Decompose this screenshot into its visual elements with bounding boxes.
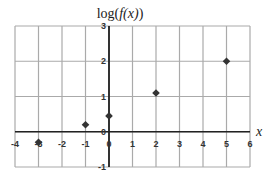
- data-point-diamond: [152, 89, 160, 97]
- chart-title: log(f(x)): [97, 6, 144, 22]
- y-tick-label: 2: [101, 56, 106, 66]
- x-tick-label: 6: [247, 139, 252, 149]
- x-tick-label: 2: [153, 139, 158, 149]
- data-point-diamond: [82, 121, 90, 129]
- x-tick-label: -2: [58, 139, 66, 149]
- x-tick-label: 5: [224, 139, 229, 149]
- y-tick-label: -1: [98, 162, 106, 172]
- x-tick-label: 3: [177, 139, 182, 149]
- chart: -4-3-2-10123456-10123 log(f(x)) x: [0, 0, 269, 181]
- y-tick-label: 1: [101, 92, 106, 102]
- x-tick-label: 0: [106, 139, 111, 149]
- y-tick-label: 0: [101, 127, 106, 137]
- y-tick-label: 3: [101, 21, 106, 31]
- x-tick-label: 1: [130, 139, 135, 149]
- x-tick-label: -1: [81, 139, 89, 149]
- x-tick-label: -4: [11, 139, 19, 149]
- data-point-diamond: [223, 57, 231, 65]
- data-point-diamond: [105, 112, 113, 120]
- x-tick-label: 4: [200, 139, 205, 149]
- x-axis-label: x: [255, 124, 263, 139]
